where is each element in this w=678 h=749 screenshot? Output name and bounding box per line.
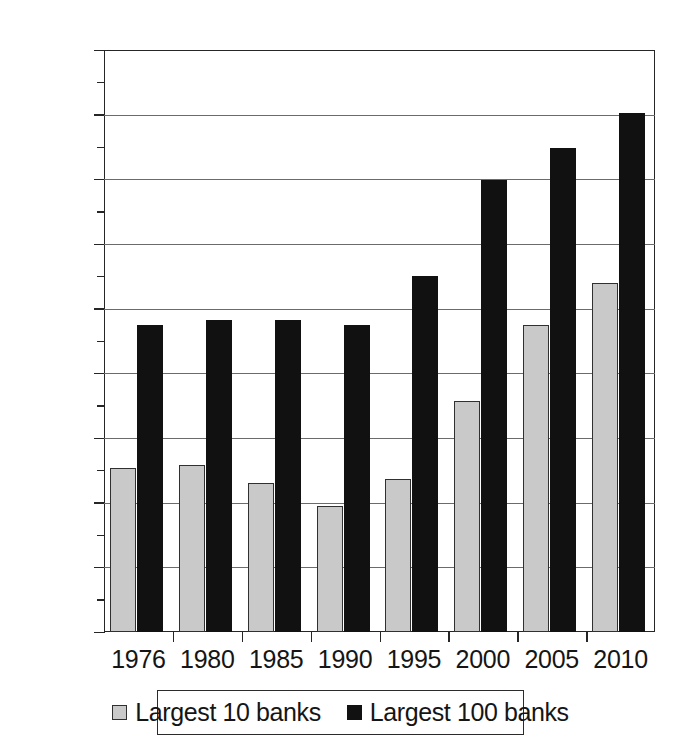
x-tick-mark — [517, 632, 519, 642]
x-tick-label: 2010 — [586, 647, 655, 672]
x-tick-mark — [448, 632, 450, 642]
bar — [317, 506, 343, 632]
x-tick-mark — [173, 632, 175, 642]
bar — [454, 401, 480, 633]
legend-label: Largest 10 banks — [135, 700, 320, 725]
bar — [110, 468, 136, 632]
bar — [481, 180, 507, 632]
bar — [137, 325, 163, 632]
bar — [248, 483, 274, 632]
x-tick-label: 1976 — [104, 647, 173, 672]
bar — [523, 325, 549, 632]
x-tick-mark — [586, 632, 588, 642]
bar — [619, 113, 645, 632]
x-tick-label: 2005 — [517, 647, 586, 672]
x-tick-label: 1985 — [242, 647, 311, 672]
gridline-80 — [104, 115, 655, 116]
chart-legend: Largest 10 banksLargest 100 banks — [157, 690, 524, 735]
legend-swatch-icon — [347, 705, 362, 720]
bar — [344, 325, 370, 632]
x-tick-mark — [242, 632, 244, 642]
x-tick-label: 1990 — [311, 647, 380, 672]
bar — [412, 276, 438, 632]
bar — [206, 320, 232, 632]
legend-swatch-icon — [112, 705, 127, 720]
x-tick-mark — [380, 632, 382, 642]
x-tick-label: 1995 — [380, 647, 449, 672]
bar — [385, 479, 411, 632]
bar — [179, 465, 205, 632]
bar-chart-figure: 0%10%20%30%40%50%60%70%80%90% 1976198019… — [0, 0, 678, 749]
bar — [592, 283, 618, 632]
bar — [550, 148, 576, 632]
x-tick-label: 1980 — [173, 647, 242, 672]
bar — [275, 320, 301, 632]
legend-label: Largest 100 banks — [370, 700, 569, 725]
legend-item: Largest 10 banks — [112, 700, 320, 725]
x-tick-mark — [311, 632, 313, 642]
x-tick-label: 2000 — [448, 647, 517, 672]
legend-item: Largest 100 banks — [347, 700, 569, 725]
plot-area — [104, 50, 655, 632]
